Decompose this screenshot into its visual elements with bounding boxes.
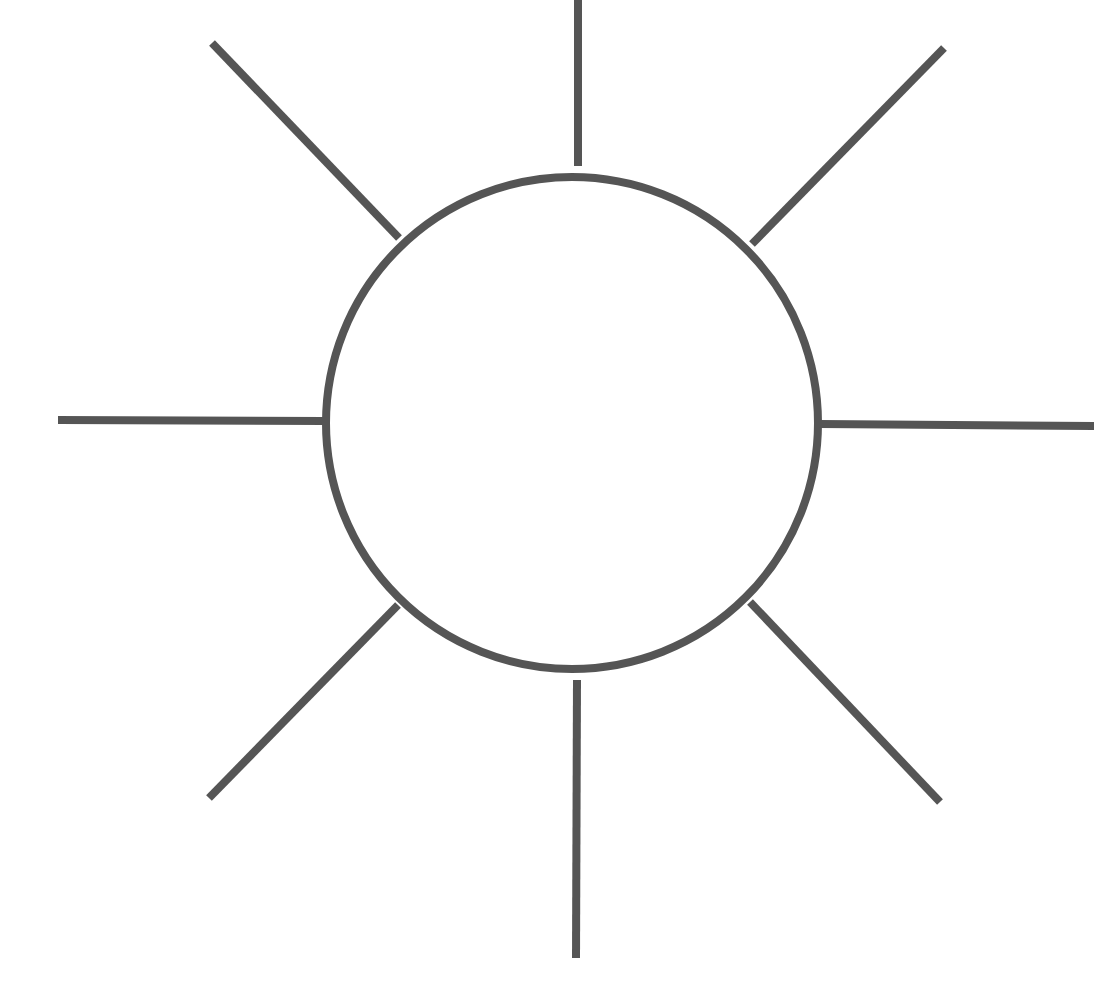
- ray-right: [820, 424, 1094, 426]
- ray-bottom-right: [750, 602, 940, 802]
- sun-rays: [58, 0, 1094, 958]
- ray-bottom: [576, 680, 577, 958]
- ray-bottom-left: [209, 605, 398, 798]
- ray-top-left: [212, 43, 399, 238]
- sun-circle: [326, 177, 818, 669]
- ray-left: [58, 420, 324, 421]
- ray-top-right: [752, 48, 944, 244]
- sun-diagram: [0, 0, 1112, 988]
